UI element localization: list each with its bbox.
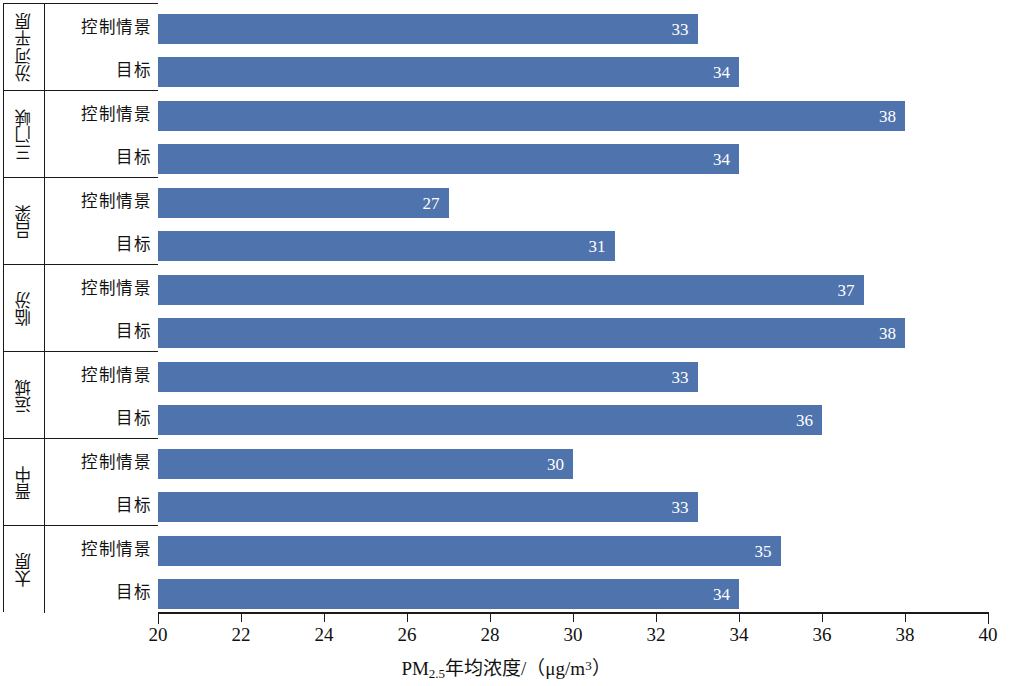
x-axis-tick-label: 20 <box>149 624 168 646</box>
x-axis-tick-label: 24 <box>315 624 334 646</box>
bar: 34 <box>158 57 739 87</box>
bar-row: 30 <box>158 449 573 479</box>
x-axis-tick <box>656 613 657 622</box>
series-label: 目标 <box>45 482 158 525</box>
bar-row: 34 <box>158 57 739 87</box>
x-axis-title-prefix: PM <box>401 658 428 679</box>
series-label: 目标 <box>45 221 158 264</box>
series-label-cell: 控制情景目标 <box>45 352 158 438</box>
series-label: 目标 <box>45 134 158 177</box>
bar-row: 33 <box>158 362 698 392</box>
series-label-cell: 控制情景目标 <box>45 439 158 525</box>
bar-row: 37 <box>158 275 864 305</box>
bar-value-label: 34 <box>713 151 739 168</box>
category-group-label: 运城 <box>16 378 33 413</box>
bar: 31 <box>158 231 615 261</box>
x-axis-tick-label: 36 <box>813 624 832 646</box>
x-axis-tick-label: 32 <box>647 624 666 646</box>
bar: 36 <box>158 405 822 435</box>
series-label-cell: 控制情景目标 <box>45 178 158 264</box>
x-axis-tick-label: 22 <box>232 624 251 646</box>
series-label-cell: 控制情景目标 <box>45 265 158 351</box>
bar-value-label: 33 <box>672 369 698 386</box>
x-axis-tick-label: 26 <box>398 624 417 646</box>
x-axis-tick <box>490 613 491 622</box>
x-axis-tick <box>988 613 989 624</box>
category-group-label: 临汾 <box>16 291 33 326</box>
bar: 38 <box>158 101 905 131</box>
x-axis-tick <box>822 613 823 622</box>
series-label: 控制情景 <box>45 526 158 570</box>
series-label: 控制情景 <box>45 439 158 482</box>
series-label-cell: 控制情景目标 <box>45 4 158 90</box>
bar-value-label: 33 <box>672 499 698 516</box>
bar: 34 <box>158 144 739 174</box>
x-axis-title-subscript: 2.5 <box>429 666 445 681</box>
bar-row: 38 <box>158 318 905 348</box>
category-group-label-cell: 三门峡 <box>4 91 45 177</box>
bar-row: 31 <box>158 231 615 261</box>
bar: 33 <box>158 362 698 392</box>
x-axis-title-middle: 年均浓度/（μg/m <box>445 658 585 679</box>
bar-value-label: 37 <box>838 282 864 299</box>
category-group-label-cell: 吕梁 <box>4 178 45 264</box>
bar: 33 <box>158 14 698 44</box>
series-label-cell: 控制情景目标 <box>45 526 158 613</box>
category-group-label-cell: 临汾 <box>4 265 45 351</box>
x-axis-tick-label: 34 <box>730 624 749 646</box>
category-group: 太原控制情景目标 <box>4 526 158 613</box>
bar-row: 33 <box>158 492 698 522</box>
bar-value-label: 36 <box>796 412 822 429</box>
bar-row: 34 <box>158 579 739 609</box>
category-group: 临汾控制情景目标 <box>4 265 158 352</box>
category-group: 吕梁控制情景目标 <box>4 178 158 265</box>
x-axis-tick-label: 30 <box>564 624 583 646</box>
bar-value-label: 31 <box>589 238 615 255</box>
bar-row: 36 <box>158 405 822 435</box>
bar: 34 <box>158 579 739 609</box>
bar: 30 <box>158 449 573 479</box>
bar-value-label: 34 <box>713 586 739 603</box>
x-axis-tick <box>407 613 408 622</box>
bar-row: 35 <box>158 536 781 566</box>
bar: 33 <box>158 492 698 522</box>
x-axis-tick-label: 38 <box>896 624 915 646</box>
bar-value-label: 30 <box>547 456 573 473</box>
series-label: 控制情景 <box>45 352 158 395</box>
plot-area: 3334383427313738333630333534202224262830… <box>158 3 988 612</box>
x-axis-tick <box>324 613 325 622</box>
category-group-label-cell: 晋中 <box>4 439 45 525</box>
bar-value-label: 27 <box>423 195 449 212</box>
series-label: 控制情景 <box>45 4 158 47</box>
category-group-label: 太原 <box>16 552 33 587</box>
bar: 35 <box>158 536 781 566</box>
series-label: 控制情景 <box>45 178 158 221</box>
category-group-label: 汾河平原 <box>16 12 33 82</box>
category-group-label-cell: 汾河平原 <box>4 4 45 90</box>
bar-value-label: 38 <box>879 325 905 342</box>
series-label: 控制情景 <box>45 265 158 308</box>
bar: 37 <box>158 275 864 305</box>
category-group-label: 三门峡 <box>16 108 33 161</box>
category-group: 三门峡控制情景目标 <box>4 91 158 178</box>
bar-value-label: 38 <box>879 108 905 125</box>
series-label: 目标 <box>45 308 158 351</box>
x-axis-tick-label: 28 <box>481 624 500 646</box>
bar-row: 34 <box>158 144 739 174</box>
bar-row: 27 <box>158 188 449 218</box>
bar: 27 <box>158 188 449 218</box>
series-label: 目标 <box>45 395 158 438</box>
x-axis-tick-label: 40 <box>979 624 998 646</box>
category-group: 汾河平原控制情景目标 <box>4 4 158 91</box>
series-label: 目标 <box>45 570 158 614</box>
category-axis-block: 汾河平原控制情景目标三门峡控制情景目标吕梁控制情景目标临汾控制情景目标运城控制情… <box>3 3 158 612</box>
series-label-cell: 控制情景目标 <box>45 91 158 177</box>
category-group: 运城控制情景目标 <box>4 352 158 439</box>
bar-row: 38 <box>158 101 905 131</box>
series-label: 控制情景 <box>45 91 158 134</box>
category-group: 晋中控制情景目标 <box>4 439 158 526</box>
category-group-label: 晋中 <box>16 465 33 500</box>
category-group-label-cell: 运城 <box>4 352 45 438</box>
bar-row: 33 <box>158 14 698 44</box>
bar-value-label: 34 <box>713 64 739 81</box>
